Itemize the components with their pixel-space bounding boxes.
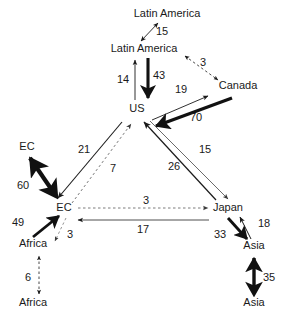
node-ec-outer: EC (19, 140, 34, 152)
edge-label-ec-to-us: 7 (110, 162, 116, 174)
arrow-japan-to-asia (228, 218, 247, 239)
node-canada: Canada (219, 79, 258, 91)
edge-label-canada-to-us: 70 (190, 111, 202, 123)
arrow-us-to-japan (150, 121, 228, 199)
arrow-africa-to-ec (33, 216, 59, 237)
edge-label-ec-to-africa: 3 (67, 228, 73, 240)
node-us: US (129, 102, 144, 114)
edge-label-latin-america-to-us: 43 (153, 69, 165, 81)
edge-label-us-to-ec: 21 (78, 143, 90, 155)
node-labels: Latin America Latin America Canada US EC… (19, 7, 266, 308)
edge-label-latin-america-pair: 15 (156, 25, 168, 37)
trade-flow-diagram: Latin America Latin America Canada US EC… (0, 0, 285, 323)
edge-label-asia-pair: 35 (263, 271, 275, 283)
node-africa: Africa (19, 237, 48, 249)
diagram-canvas: Latin America Latin America Canada US EC… (0, 0, 285, 323)
edge-label-japan-to-us: 26 (168, 160, 180, 172)
edges (30, 23, 254, 294)
edge-label-us-to-japan: 15 (199, 143, 211, 155)
arrow-ec-pair (30, 158, 56, 196)
edge-labels: 15 3 14 43 19 70 60 21 7 15 26 3 17 49 3… (12, 25, 275, 283)
edge-label-ec-pair: 60 (17, 179, 29, 191)
arrow-ec-to-africa (55, 218, 66, 241)
edge-label-ec-to-japan: 3 (143, 194, 149, 206)
arrow-ec-to-us (72, 124, 131, 203)
edge-label-japan-to-ec: 17 (137, 223, 149, 235)
node-asia: Asia (243, 239, 265, 251)
edge-label-japan-to-asia: 33 (214, 228, 226, 240)
node-africa-outer: Africa (19, 296, 48, 308)
edge-label-latin-america-canada: 3 (200, 56, 206, 68)
edge-label-us-to-canada: 19 (175, 83, 187, 95)
edge-label-us-to-latin-america: 14 (117, 73, 129, 85)
node-ec: EC (56, 201, 71, 213)
node-latin-america-top: Latin America (134, 7, 202, 19)
edge-label-africa-to-ec: 49 (12, 216, 24, 228)
arrow-us-to-ec (58, 122, 122, 198)
node-asia-outer: Asia (243, 296, 265, 308)
node-latin-america: Latin America (111, 42, 179, 54)
node-japan: Japan (213, 201, 243, 213)
edge-label-africa-pair: 6 (25, 271, 31, 283)
edge-label-asia-to-japan: 18 (258, 217, 270, 229)
